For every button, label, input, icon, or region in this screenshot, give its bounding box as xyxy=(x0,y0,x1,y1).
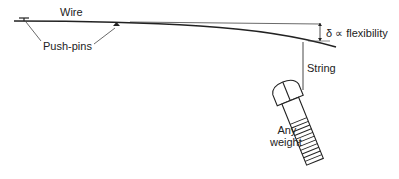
string-label: String xyxy=(307,62,336,74)
weight-label-line1: Any xyxy=(270,124,302,136)
arrow-down-icon xyxy=(318,38,322,41)
push-pins-label: Push-pins xyxy=(43,40,92,52)
leader-line xyxy=(94,28,115,44)
wire-label: Wire xyxy=(60,6,83,18)
weight-label-line2: weight xyxy=(270,136,302,148)
arrow-up-icon xyxy=(318,23,322,26)
leader-line xyxy=(26,22,41,41)
bolt-weight-icon xyxy=(270,77,328,167)
weight-label: Any weight xyxy=(270,124,302,148)
deflection-label: δ ∝ flexibility xyxy=(326,27,388,39)
